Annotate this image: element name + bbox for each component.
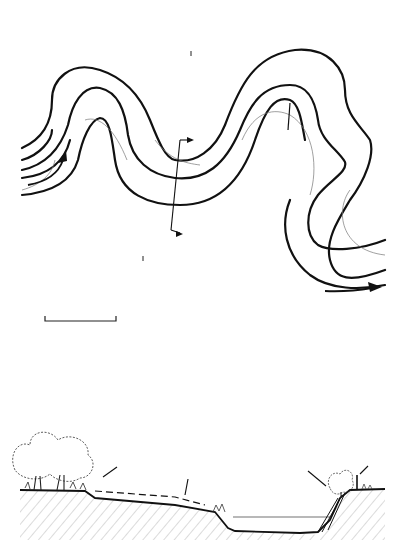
river-diagram-canvas xyxy=(0,0,402,550)
scale-bar xyxy=(45,316,116,321)
river-channel xyxy=(22,50,385,288)
trees-leader xyxy=(103,467,117,477)
section-arrow-b xyxy=(176,231,183,237)
fence-leader xyxy=(360,466,368,474)
excavated-area-leader xyxy=(288,103,290,130)
ground-hatch xyxy=(20,488,385,540)
willows-leader xyxy=(308,471,326,486)
excavated-leader xyxy=(185,479,188,495)
floodbank-top xyxy=(22,31,385,76)
water-edge-shrub xyxy=(213,504,225,512)
existing-trees xyxy=(13,432,93,490)
section-arrow-a xyxy=(187,137,194,143)
section-line-a-b xyxy=(171,140,192,233)
